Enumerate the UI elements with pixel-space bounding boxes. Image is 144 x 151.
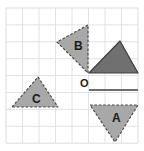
triangle-C-label: C bbox=[32, 92, 41, 106]
point-O-label: O bbox=[80, 77, 89, 89]
triangle-B-label: B bbox=[74, 39, 83, 53]
triangle-A-label: A bbox=[112, 111, 121, 125]
figure-canvas: BCA O bbox=[0, 0, 144, 151]
geometry-figure: BCA O bbox=[0, 0, 144, 151]
